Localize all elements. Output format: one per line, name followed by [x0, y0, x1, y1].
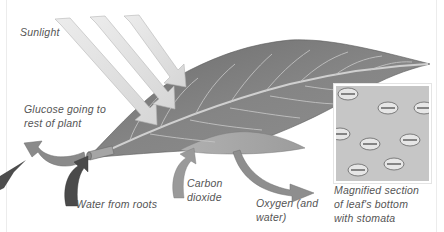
stomata-magnified-inset: [334, 84, 431, 183]
label-oxygen-line1: Oxygen (and: [256, 197, 318, 210]
label-sunlight: Sunlight: [20, 26, 60, 39]
label-glucose-line1: Glucose going to: [24, 103, 106, 116]
label-inset-caption-line2: of leaf's bottom: [334, 198, 408, 211]
label-water-from-roots: Water from roots: [76, 198, 157, 211]
stomata-pattern: [336, 86, 429, 181]
label-inset-caption-line1: Magnified section: [334, 184, 419, 197]
label-carbon-dioxide-line2: dioxide: [187, 191, 222, 204]
photosynthesis-diagram: Sunlight Glucose going to rest of plant …: [0, 0, 444, 232]
label-carbon-dioxide-line1: Carbon: [187, 177, 223, 190]
left-edge-arrow: [0, 160, 26, 190]
oxygen-arrow: [233, 150, 314, 202]
label-oxygen-line2: water): [256, 211, 286, 224]
label-glucose-line2: rest of plant: [24, 117, 81, 130]
label-inset-caption-line3: with stomata: [334, 212, 395, 225]
